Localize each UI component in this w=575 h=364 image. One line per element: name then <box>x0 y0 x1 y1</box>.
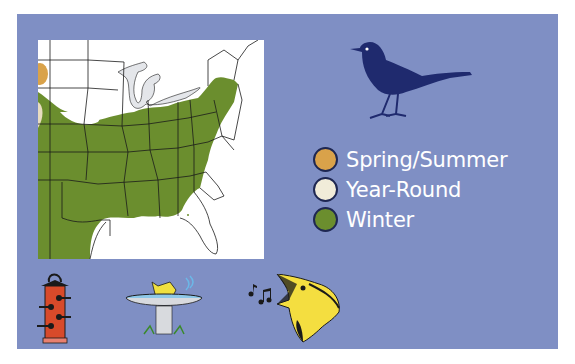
legend-item-winter: Winter <box>313 205 507 234</box>
legend-label: Spring/Summer <box>346 148 507 172</box>
us-map-svg <box>38 40 264 259</box>
tube-feeder-icon <box>35 266 75 350</box>
spring-summer-patch <box>38 63 48 85</box>
legend: Spring/Summer Year-Round Winter <box>313 145 507 235</box>
birdbath-icon <box>124 274 204 340</box>
year-round-swatch-icon <box>313 177 338 202</box>
legend-item-spring-summer: Spring/Summer <box>313 145 507 174</box>
florida-dot <box>187 214 189 216</box>
legend-label: Year-Round <box>346 178 461 202</box>
legend-label: Winter <box>346 208 414 232</box>
legend-item-year-round: Year-Round <box>313 175 507 204</box>
range-map <box>38 40 264 259</box>
bird-silhouette-icon <box>350 38 474 127</box>
winter-swatch-icon <box>313 207 338 232</box>
singing-bird-icon <box>245 274 355 348</box>
spring-summer-swatch-icon <box>313 147 338 172</box>
